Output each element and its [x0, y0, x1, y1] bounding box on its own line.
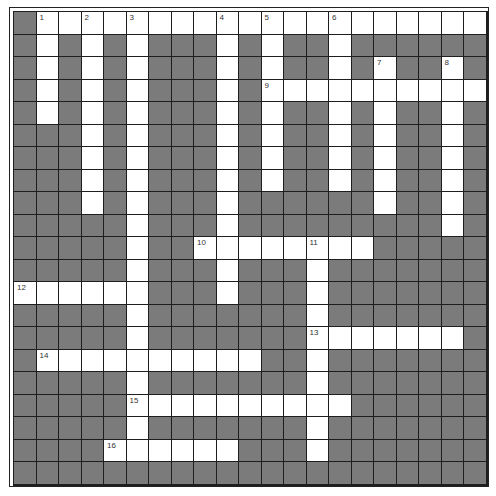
- grid-cell-open[interactable]: [217, 282, 240, 305]
- grid-cell-open[interactable]: [149, 350, 172, 373]
- grid-cell-open[interactable]: [127, 305, 150, 328]
- grid-cell-open[interactable]: 8: [442, 57, 465, 80]
- grid-cell-open[interactable]: [127, 125, 150, 148]
- grid-cell-open[interactable]: [217, 147, 240, 170]
- grid-cell-open[interactable]: [37, 35, 60, 58]
- grid-cell-open[interactable]: [217, 192, 240, 215]
- grid-cell-open[interactable]: [284, 237, 307, 260]
- grid-cell-open[interactable]: [374, 170, 397, 193]
- grid-cell-open[interactable]: [82, 170, 105, 193]
- grid-cell-open[interactable]: [329, 35, 352, 58]
- grid-cell-open[interactable]: [239, 237, 262, 260]
- grid-cell-open[interactable]: [217, 35, 240, 58]
- grid-cell-open[interactable]: [262, 35, 285, 58]
- grid-cell-open[interactable]: [217, 170, 240, 193]
- grid-cell-open[interactable]: [262, 395, 285, 418]
- grid-cell-open[interactable]: [82, 147, 105, 170]
- grid-cell-open[interactable]: [307, 282, 330, 305]
- grid-cell-open[interactable]: [127, 80, 150, 103]
- grid-cell-open[interactable]: [127, 102, 150, 125]
- grid-cell-open[interactable]: [82, 350, 105, 373]
- grid-cell-open[interactable]: 12: [14, 282, 37, 305]
- grid-cell-open[interactable]: [194, 350, 217, 373]
- grid-cell-open[interactable]: [262, 102, 285, 125]
- grid-cell-open[interactable]: [329, 237, 352, 260]
- grid-cell-open[interactable]: [374, 327, 397, 350]
- grid-cell-open[interactable]: [127, 170, 150, 193]
- grid-cell-open[interactable]: [127, 215, 150, 238]
- grid-cell-open[interactable]: [419, 327, 442, 350]
- grid-cell-open[interactable]: 6: [329, 12, 352, 35]
- grid-cell-open[interactable]: [352, 12, 375, 35]
- grid-cell-open[interactable]: [149, 440, 172, 463]
- grid-cell-open[interactable]: [374, 12, 397, 35]
- grid-cell-open[interactable]: [59, 350, 82, 373]
- grid-cell-open[interactable]: [307, 12, 330, 35]
- grid-cell-open[interactable]: [149, 12, 172, 35]
- grid-cell-open[interactable]: [262, 237, 285, 260]
- grid-cell-open[interactable]: [217, 102, 240, 125]
- grid-cell-open[interactable]: [82, 102, 105, 125]
- grid-cell-open[interactable]: [374, 102, 397, 125]
- grid-cell-open[interactable]: [442, 12, 465, 35]
- grid-cell-open[interactable]: [329, 80, 352, 103]
- grid-cell-open[interactable]: [397, 327, 420, 350]
- grid-cell-open[interactable]: [262, 125, 285, 148]
- grid-cell-open[interactable]: [307, 350, 330, 373]
- grid-cell-open[interactable]: [307, 260, 330, 283]
- grid-cell-open[interactable]: [284, 12, 307, 35]
- grid-cell-open[interactable]: [127, 192, 150, 215]
- grid-cell-open[interactable]: [104, 282, 127, 305]
- grid-cell-open[interactable]: 9: [262, 80, 285, 103]
- grid-cell-open[interactable]: [37, 80, 60, 103]
- grid-cell-open[interactable]: [127, 350, 150, 373]
- grid-cell-open[interactable]: [284, 395, 307, 418]
- grid-cell-open[interactable]: [172, 12, 195, 35]
- grid-cell-open[interactable]: [104, 12, 127, 35]
- grid-cell-open[interactable]: [127, 57, 150, 80]
- grid-cell-open[interactable]: [149, 395, 172, 418]
- grid-cell-open[interactable]: [172, 395, 195, 418]
- grid-cell-open[interactable]: [307, 80, 330, 103]
- grid-cell-open[interactable]: [419, 12, 442, 35]
- grid-cell-open[interactable]: [464, 12, 487, 35]
- grid-cell-open[interactable]: [217, 57, 240, 80]
- grid-cell-open[interactable]: [329, 102, 352, 125]
- grid-cell-open[interactable]: [307, 440, 330, 463]
- grid-cell-open[interactable]: [239, 12, 262, 35]
- grid-cell-open[interactable]: [82, 192, 105, 215]
- grid-cell-open[interactable]: [127, 237, 150, 260]
- grid-cell-open[interactable]: [374, 147, 397, 170]
- grid-cell-open[interactable]: [464, 80, 487, 103]
- grid-cell-open[interactable]: [59, 12, 82, 35]
- grid-cell-open[interactable]: [127, 440, 150, 463]
- grid-cell-open[interactable]: [37, 57, 60, 80]
- grid-cell-open[interactable]: 5: [262, 12, 285, 35]
- grid-cell-open[interactable]: [194, 395, 217, 418]
- grid-cell-open[interactable]: [307, 417, 330, 440]
- grid-cell-open[interactable]: 14: [37, 350, 60, 373]
- grid-cell-open[interactable]: [329, 125, 352, 148]
- grid-cell-open[interactable]: [329, 57, 352, 80]
- grid-cell-open[interactable]: 2: [82, 12, 105, 35]
- grid-cell-open[interactable]: [172, 440, 195, 463]
- grid-cell-open[interactable]: [307, 395, 330, 418]
- grid-cell-open[interactable]: [262, 147, 285, 170]
- grid-cell-open[interactable]: [442, 125, 465, 148]
- grid-cell-open[interactable]: [329, 170, 352, 193]
- grid-cell-open[interactable]: [127, 417, 150, 440]
- grid-cell-open[interactable]: [352, 80, 375, 103]
- grid-cell-open[interactable]: [284, 80, 307, 103]
- grid-cell-open[interactable]: [442, 192, 465, 215]
- grid-cell-open[interactable]: [217, 80, 240, 103]
- grid-cell-open[interactable]: [442, 80, 465, 103]
- grid-cell-open[interactable]: [307, 305, 330, 328]
- grid-cell-open[interactable]: [397, 12, 420, 35]
- grid-cell-open[interactable]: [127, 282, 150, 305]
- grid-cell-open[interactable]: [127, 372, 150, 395]
- grid-cell-open[interactable]: [217, 350, 240, 373]
- grid-cell-open[interactable]: [217, 440, 240, 463]
- grid-cell-open[interactable]: [127, 260, 150, 283]
- grid-cell-open[interactable]: 4: [217, 12, 240, 35]
- grid-cell-open[interactable]: 3: [127, 12, 150, 35]
